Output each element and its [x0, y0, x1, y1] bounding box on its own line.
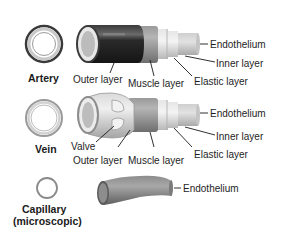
- vein-valve-label: Valve: [71, 141, 95, 152]
- vein-title: Vein: [35, 143, 57, 155]
- vein-muscle-layer-label: Muscle layer: [128, 155, 184, 166]
- vein-outer-layer-label: Outer layer: [73, 155, 122, 166]
- capillary-endothelium-label: Endothelium: [183, 183, 239, 194]
- artery-muscle-layer-label: Muscle layer: [128, 78, 184, 89]
- capillary-tube: [97, 176, 173, 205]
- artery-outer-layer-label: Outer layer: [73, 74, 122, 85]
- artery-title: Artery: [28, 72, 59, 84]
- capillary-subtitle: (microscopic): [13, 215, 82, 227]
- vein-layers: [77, 93, 200, 138]
- artery-elastic-layer-label: Elastic layer: [194, 76, 248, 87]
- vein-endothelium-label: Endothelium: [210, 108, 266, 119]
- capillary-cross-section: [37, 178, 57, 198]
- vein-inner-layer-label: Inner layer: [216, 131, 263, 142]
- capillary-title: Capillary: [22, 203, 66, 215]
- artery-endothelium-label: Endothelium: [210, 39, 266, 50]
- vein-cross-section: [26, 100, 62, 136]
- artery-inner-layer-label: Inner layer: [216, 58, 263, 69]
- vein-elastic-layer-label: Elastic layer: [194, 149, 248, 160]
- artery-cross-section: [26, 26, 62, 62]
- artery-layers: [76, 25, 200, 63]
